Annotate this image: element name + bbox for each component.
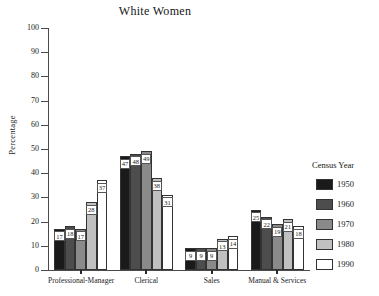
y-axis-tick <box>41 222 48 223</box>
legend-swatch <box>316 219 333 230</box>
y-axis-tick-label: 0 <box>0 266 39 274</box>
legend-title: Census Year <box>312 160 378 170</box>
y-axis-tick-label: 30 <box>0 193 39 201</box>
y-axis-tick-label-text: 40 <box>3 169 39 177</box>
y-axis-tick <box>41 173 48 174</box>
y-axis-tick-label-text: 30 <box>3 193 39 201</box>
y-axis-tick <box>41 52 48 53</box>
bar-value-label: 47 <box>120 159 130 169</box>
legend-swatch <box>316 259 333 270</box>
y-axis-tick <box>41 76 48 77</box>
y-axis-tick-label: 60 <box>0 121 39 129</box>
bar-value-label: 9 <box>207 251 217 261</box>
y-axis-tick-label-text: 60 <box>3 121 39 129</box>
y-axis-title: Percentage <box>7 100 17 170</box>
y-axis-tick <box>41 28 48 29</box>
legend-label: 1990 <box>337 260 354 269</box>
y-axis-tick-label-text: 90 <box>3 48 39 56</box>
x-axis-category-label: Professional-Manager <box>48 276 114 285</box>
x-axis-line <box>48 270 310 271</box>
x-axis-category-label: Sales <box>179 276 245 285</box>
bar-value-label: 28 <box>86 205 96 215</box>
y-axis-tick <box>41 270 48 271</box>
y-axis-tick-label-text: 50 <box>3 145 39 153</box>
y-axis-tick-label: 70 <box>0 97 39 105</box>
y-axis-tick-label: 40 <box>0 169 39 177</box>
legend-label: 1950 <box>337 180 354 189</box>
legend-swatch <box>316 179 333 190</box>
y-axis-tick <box>41 125 48 126</box>
y-axis-tick <box>41 246 48 247</box>
x-axis-tick <box>80 270 82 274</box>
bar-value-label: 37 <box>97 183 107 193</box>
y-axis-tick-label-text: 80 <box>3 72 39 80</box>
bar-value-label: 49 <box>141 154 151 164</box>
y-axis-tick <box>41 101 48 102</box>
x-axis-tick <box>211 270 213 274</box>
legend-label: 1960 <box>337 200 354 209</box>
chart-title: White Women <box>0 4 310 19</box>
bar-value-label: 17 <box>76 231 86 241</box>
y-axis-tick-label: 20 <box>0 218 39 226</box>
y-axis-tick-label-text: 70 <box>3 97 39 105</box>
y-axis-tick-label: 80 <box>0 72 39 80</box>
y-axis-tick-label: 100 <box>0 24 39 32</box>
bar-value-label: 13 <box>217 241 227 251</box>
bar-value-label: 9 <box>185 251 195 261</box>
y-axis-tick-label: 50 <box>0 145 39 153</box>
y-axis-tick-label: 90 <box>0 48 39 56</box>
y-axis-tick-label-text: 0 <box>3 266 39 274</box>
bar-value-label: 19 <box>272 227 282 237</box>
y-axis-tick <box>41 149 48 150</box>
bar <box>152 178 163 270</box>
bar-value-label: 21 <box>283 222 293 232</box>
y-axis-tick-label-text: 20 <box>3 218 39 226</box>
bar-value-label: 18 <box>65 229 75 239</box>
y-axis-tick-label-text: 100 <box>3 24 39 32</box>
y-axis-tick-label: 10 <box>0 242 39 250</box>
bar <box>141 151 152 270</box>
y-axis-tick <box>41 197 48 198</box>
bar-value-label: 22 <box>261 219 271 229</box>
bar-value-label: 25 <box>251 212 261 222</box>
legend-label: 1980 <box>337 240 354 249</box>
x-axis-category-label: Manual & Services <box>245 276 311 285</box>
bar-value-label: 48 <box>130 156 140 166</box>
x-axis-category-label: Clerical <box>114 276 180 285</box>
y-axis-tick-label-text: 10 <box>3 242 39 250</box>
legend-swatch <box>316 239 333 250</box>
legend-swatch <box>316 199 333 210</box>
chart-figure: White Women Percentage 01020304050607080… <box>0 0 379 296</box>
bar-value-label: 14 <box>228 239 238 249</box>
x-axis-tick <box>145 270 147 274</box>
bar-value-label: 17 <box>54 231 64 241</box>
bar <box>97 180 108 270</box>
bar-value-label: 18 <box>293 229 303 239</box>
x-axis-tick <box>276 270 278 274</box>
bar-value-label: 9 <box>196 251 206 261</box>
legend-label: 1970 <box>337 220 354 229</box>
bar <box>120 156 131 270</box>
bar-value-label: 31 <box>162 197 172 207</box>
bar-value-label: 38 <box>152 181 162 191</box>
bar <box>130 154 141 270</box>
